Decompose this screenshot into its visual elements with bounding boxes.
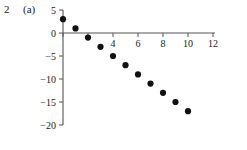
tick-label-layer: 468101250−5−10−15−20 [40, 5, 218, 131]
data-point [97, 44, 103, 50]
data-point-layer [60, 16, 191, 114]
y-tick-label: 0 [51, 28, 56, 39]
x-tick-label: 10 [183, 38, 193, 49]
data-point [147, 81, 153, 87]
x-tick-label: 8 [161, 38, 166, 49]
data-point [160, 90, 166, 96]
data-point [172, 99, 178, 105]
x-tick-label: 6 [136, 38, 141, 49]
y-tick-label: −5 [45, 51, 56, 62]
x-tick-label: 12 [208, 38, 218, 49]
figure-container: 2 (a) 468101250−5−10−15−20 [0, 0, 247, 150]
data-point [72, 25, 78, 31]
tick-mark-layer [59, 10, 213, 125]
y-tick-label: −20 [40, 120, 56, 131]
data-point [135, 71, 141, 77]
x-tick-label: 4 [111, 38, 116, 49]
data-point [60, 16, 66, 22]
scatter-plot: 468101250−5−10−15−20 [0, 0, 247, 150]
axis-layer [63, 10, 215, 125]
data-point [185, 108, 191, 114]
y-tick-label: 5 [51, 5, 56, 16]
data-point [122, 62, 128, 68]
y-tick-label: −15 [40, 97, 56, 108]
data-point [85, 35, 91, 41]
data-point [110, 53, 116, 59]
y-tick-label: −10 [40, 74, 56, 85]
